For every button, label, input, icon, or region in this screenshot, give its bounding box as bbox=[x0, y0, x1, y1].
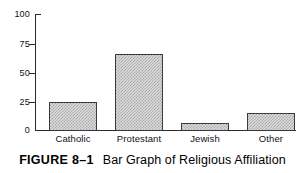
y-axis-labels: 100 75 50 25 0 bbox=[4, 0, 30, 148]
y-tick-label-75: 75 bbox=[6, 40, 30, 49]
y-tick-label-25: 25 bbox=[6, 98, 30, 107]
figure-caption: FIGURE 8–1 Bar Graph of Religious Affili… bbox=[0, 150, 305, 170]
bar-other bbox=[247, 113, 295, 131]
y-tick-label-0: 0 bbox=[6, 126, 30, 135]
x-tick-label-other: Other bbox=[235, 133, 305, 145]
x-axis-labels: Catholic Protestant Jewish Other bbox=[35, 133, 296, 147]
y-tick-label-50: 50 bbox=[6, 69, 30, 78]
figure-container: 100 75 50 25 0 Catholic Protestant Jewis… bbox=[0, 0, 305, 173]
y-tick-label-100: 100 bbox=[6, 10, 30, 19]
bar-protestant bbox=[115, 54, 163, 131]
bar-jewish bbox=[181, 123, 229, 131]
x-tick-label-jewish: Jewish bbox=[169, 133, 241, 145]
x-tick-label-catholic: Catholic bbox=[37, 133, 109, 145]
bar-series bbox=[35, 14, 296, 131]
bar-catholic bbox=[49, 102, 97, 131]
figure-caption-number: FIGURE 8–1 bbox=[19, 153, 94, 167]
chart-plot-area: 100 75 50 25 0 Catholic Protestant Jewis… bbox=[0, 0, 305, 148]
figure-caption-text: Bar Graph of Religious Affiliation bbox=[103, 153, 286, 167]
x-tick-label-protestant: Protestant bbox=[103, 133, 175, 145]
